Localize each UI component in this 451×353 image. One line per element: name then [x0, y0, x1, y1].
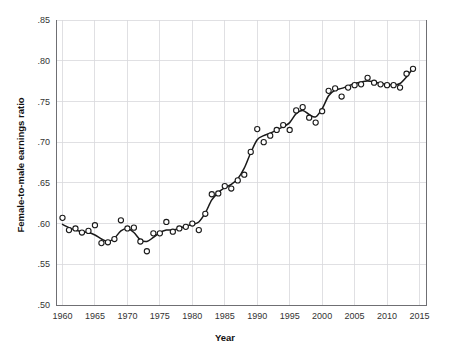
y-tick-label: .50 — [37, 300, 50, 310]
data-point-marker — [151, 231, 156, 236]
y-tick-label: .85 — [37, 15, 50, 25]
data-point-marker — [60, 215, 65, 220]
data-point-marker — [235, 178, 240, 183]
y-tick-label: .75 — [37, 97, 50, 107]
data-point-marker — [300, 105, 305, 110]
x-tick-label: 2010 — [377, 311, 397, 321]
gridlines-vertical — [62, 20, 419, 305]
data-markers — [60, 66, 416, 254]
y-axis-tick-labels: .50.55.60.65.70.75.80.85 — [37, 15, 50, 310]
data-point-marker — [268, 133, 273, 138]
data-point-marker — [365, 75, 370, 80]
data-point-marker — [222, 184, 227, 189]
data-point-marker — [203, 211, 208, 216]
y-tick-label: .80 — [37, 56, 50, 66]
x-tick-label: 2000 — [312, 311, 332, 321]
x-tick-label: 2005 — [345, 311, 365, 321]
x-tick-label: 1995 — [280, 311, 300, 321]
data-point-marker — [138, 239, 143, 244]
data-point-marker — [333, 86, 338, 91]
data-point-marker — [287, 127, 292, 132]
data-point-marker — [313, 120, 318, 125]
x-axis-tick-labels: 1960196519701975198019851990199520002005… — [52, 311, 429, 321]
x-axis-title: Year — [215, 332, 235, 343]
data-point-marker — [105, 240, 110, 245]
data-point-marker — [183, 224, 188, 229]
chart-container: .50.55.60.65.70.75.80.85 196019651970197… — [0, 0, 451, 353]
x-tick-label: 2015 — [409, 311, 429, 321]
data-point-marker — [255, 127, 260, 132]
x-tick-label: 1975 — [150, 311, 170, 321]
data-point-marker — [339, 94, 344, 99]
y-tick-label: .65 — [37, 178, 50, 188]
data-point-marker — [112, 236, 117, 241]
y-tick-label: .70 — [37, 137, 50, 147]
data-point-marker — [274, 127, 279, 132]
data-point-marker — [190, 221, 195, 226]
gridlines-horizontal — [56, 20, 426, 264]
data-point-marker — [99, 241, 104, 246]
data-point-marker — [196, 227, 201, 232]
y-tick-label: .55 — [37, 259, 50, 269]
data-point-marker — [326, 88, 331, 93]
data-point-marker — [391, 83, 396, 88]
x-tick-label: 1990 — [247, 311, 267, 321]
data-point-marker — [164, 219, 169, 224]
data-point-marker — [125, 226, 130, 231]
data-point-marker — [397, 85, 402, 90]
data-point-marker — [216, 191, 221, 196]
data-point-marker — [73, 226, 78, 231]
data-point-marker — [320, 109, 325, 114]
x-tick-label: 1980 — [182, 311, 202, 321]
data-point-marker — [242, 172, 247, 177]
smoothed-trend-path — [62, 68, 413, 242]
y-tick-label: .60 — [37, 219, 50, 229]
data-point-marker — [281, 122, 286, 127]
data-point-marker — [248, 149, 253, 154]
data-point-marker — [371, 80, 376, 85]
data-point-marker — [157, 231, 162, 236]
data-point-marker — [384, 83, 389, 88]
x-tick-label: 1965 — [85, 311, 105, 321]
data-point-marker — [352, 83, 357, 88]
data-point-marker — [307, 115, 312, 120]
x-tick-label: 1970 — [117, 311, 137, 321]
data-point-marker — [118, 218, 123, 223]
earnings-ratio-line-chart: .50.55.60.65.70.75.80.85 196019651970197… — [0, 0, 451, 353]
data-point-marker — [92, 223, 97, 228]
y-axis-title: Female-to-male earnings ratio — [15, 97, 26, 232]
data-point-marker — [410, 66, 415, 71]
x-tick-label: 1985 — [215, 311, 235, 321]
data-point-marker — [177, 226, 182, 231]
data-point-marker — [144, 249, 149, 254]
data-point-marker — [261, 140, 266, 145]
data-point-marker — [404, 71, 409, 76]
trend-line — [62, 68, 413, 242]
data-point-marker — [131, 225, 136, 230]
data-point-marker — [79, 230, 84, 235]
data-point-marker — [86, 228, 91, 233]
data-point-marker — [170, 229, 175, 234]
data-point-marker — [346, 85, 351, 90]
data-point-marker — [358, 82, 363, 87]
data-point-marker — [229, 186, 234, 191]
data-point-marker — [294, 108, 299, 113]
data-point-marker — [378, 82, 383, 87]
data-point-marker — [66, 227, 71, 232]
x-tick-label: 1960 — [52, 311, 72, 321]
plot-frame — [56, 20, 426, 305]
data-point-marker — [209, 192, 214, 197]
